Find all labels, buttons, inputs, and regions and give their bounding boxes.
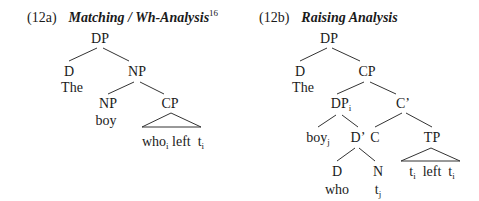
node-d: D — [64, 65, 74, 79]
index-i: i — [452, 171, 455, 181]
analysis-title: Matching / Wh-Analysis — [69, 10, 210, 25]
index-j: j — [379, 189, 382, 199]
word-left: left — [423, 164, 442, 179]
node-c-bar: C’ — [396, 97, 410, 111]
word-who: who — [325, 183, 349, 197]
example-heading-12a: (12a)Matching / Wh-Analysis16 — [27, 10, 218, 26]
index-i: i — [413, 171, 416, 181]
analysis-title: Raising Analysis — [301, 10, 397, 25]
index-i: i — [202, 141, 205, 151]
tp-yield: ti left ti — [409, 165, 454, 179]
word-the: The — [61, 81, 83, 95]
node-np-inner: NP — [99, 97, 117, 111]
node-cp: CP — [358, 65, 375, 79]
node-d: D — [295, 65, 305, 79]
node-n: N — [373, 165, 383, 179]
node-dp-i: DPi — [331, 97, 351, 111]
trace-j: tj — [375, 183, 381, 197]
word-boy-j: boyj — [306, 131, 330, 145]
node-d-bar: D’ — [351, 131, 366, 145]
word-boy: boy — [96, 114, 117, 128]
node-dp-root: DP — [320, 32, 338, 46]
cp-yield: whoi left ti — [142, 135, 204, 149]
index-j: j — [327, 137, 330, 147]
index-i: i — [349, 103, 352, 113]
word-the: The — [292, 81, 314, 95]
example-heading-12b: (12b)Raising Analysis — [259, 10, 398, 26]
node-cp: CP — [161, 97, 178, 111]
node-tp: TP — [424, 131, 440, 145]
word-boy: boy — [306, 130, 327, 145]
node-d-inner: D — [332, 165, 342, 179]
word-left: left — [172, 134, 191, 149]
example-number: (12b) — [259, 10, 289, 25]
index-i: i — [166, 141, 169, 151]
example-number: (12a) — [27, 10, 57, 25]
node-dp-root: DP — [91, 32, 109, 46]
footnote-marker: 16 — [209, 8, 218, 18]
word-who: who — [142, 134, 166, 149]
node-dp-label: DP — [331, 96, 349, 111]
node-np: NP — [128, 65, 146, 79]
node-c: C — [370, 131, 379, 145]
